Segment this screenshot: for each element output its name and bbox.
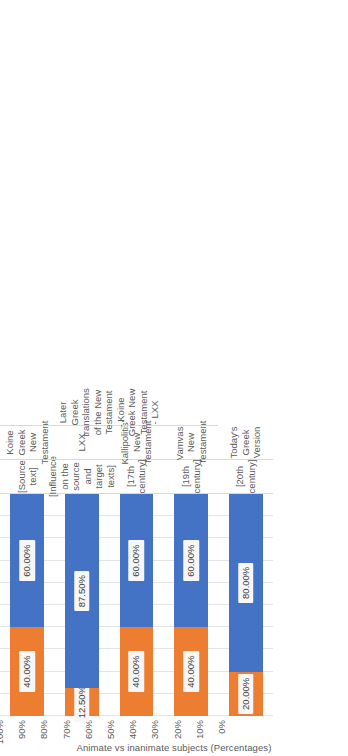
- value-axis-tick-label: 40%: [128, 720, 138, 739]
- category-label-text: Koine Greek New Testament: [0, 426, 55, 460]
- category-label-text: Today's Greek Version: [218, 426, 273, 460]
- chart-rotation-wrapper: Animate vs inanimate subjects (Percentag…: [0, 0, 348, 756]
- bar-segment-label: 40.00%: [183, 651, 199, 691]
- bar-group: 40.00%60.00%: [10, 494, 44, 716]
- bar-segment-inanimate: 40.00%: [10, 627, 44, 716]
- bar-segment-label: 20.00%: [238, 674, 254, 714]
- bar-segment-inanimate: 12.50%: [65, 688, 99, 716]
- stacked-bar-chart: Animate vs inanimate subjects (Percentag…: [0, 0, 348, 756]
- category-label-period: [19th century]: [164, 460, 219, 494]
- category-label-period-text: [17th century]: [125, 460, 148, 494]
- value-axis-tick-label: 60%: [84, 720, 94, 739]
- bar-segment-animate: 60.00%: [120, 494, 154, 627]
- plot-area: 40.00%60.00%12.50%87.50%40.00%60.00%40.0…: [0, 494, 273, 716]
- bar-segment-label: 40.00%: [20, 651, 36, 691]
- bar-group: 12.50%87.50%: [65, 494, 99, 716]
- bar-group: 40.00%60.00%: [174, 494, 208, 716]
- category-label-group: Later Greek translations of the New Test…: [0, 400, 218, 426]
- category-label-text-text: Koine Greek New Testament: [4, 421, 50, 465]
- value-axis-tick-label: 100%: [0, 720, 5, 744]
- bar-segment-label: 40.00%: [129, 651, 145, 691]
- category-label-text: Vamvas' New Testament: [164, 426, 219, 460]
- bar-segment-animate: 87.50%: [65, 494, 99, 688]
- category-tier-period: [Source text][Influence on the source an…: [0, 460, 273, 494]
- bar-segment-label: 60.00%: [129, 540, 145, 580]
- category-label-text-text: Vamvas' New Testament: [174, 421, 209, 465]
- value-axis-title: Animate vs inanimate subjects (Percentag…: [0, 740, 348, 756]
- value-axis-tick-labels: 100%90%80%70%60%50%40%30%20%10%0%: [0, 718, 273, 740]
- bar-segment-animate: 60.00%: [10, 494, 44, 627]
- category-label-period: [Influence on the source and target text…: [55, 460, 110, 494]
- category-label-period: [Source text]: [0, 460, 55, 494]
- bar-segment-inanimate: 20.00%: [229, 672, 263, 716]
- bar-segment-inanimate: 40.00%: [120, 627, 154, 716]
- category-label-period: [20th century]: [218, 460, 273, 494]
- value-axis-tick-label: 0%: [217, 720, 227, 734]
- category-label-text-text: Today's Greek Version: [228, 426, 263, 459]
- bar-segment-label: 60.00%: [183, 540, 199, 580]
- category-label-period-text: [20th century]: [234, 460, 257, 494]
- category-label-period-text: [19th century]: [180, 460, 203, 494]
- category-label-period-text: [Influence on the source and target text…: [47, 456, 116, 497]
- value-axis-tick-label: 30%: [151, 720, 161, 739]
- value-axis-tick-label: 20%: [173, 720, 183, 739]
- bar-segment-label: 80.00%: [238, 563, 254, 603]
- value-axis-tick-label: 70%: [62, 720, 72, 739]
- bar-segment-animate: 60.00%: [174, 494, 208, 627]
- bar-series-container: 40.00%60.00%12.50%87.50%40.00%60.00%40.0…: [0, 494, 273, 716]
- category-tier-group: Later Greek translations of the New Test…: [0, 400, 273, 426]
- category-label-group-text: Later Greek translations of the New Test…: [57, 388, 161, 437]
- bar-segment-label: 60.00%: [20, 540, 36, 580]
- category-label-period: [17th century]: [109, 460, 164, 494]
- value-axis-tick-label: 90%: [17, 720, 27, 739]
- category-label-period-text: [Source text]: [16, 460, 39, 493]
- value-axis-tick-label: 50%: [106, 720, 116, 739]
- bar-segment-inanimate: 40.00%: [174, 627, 208, 716]
- category-axis: [Source text][Influence on the source an…: [0, 400, 273, 494]
- bar-group: 20.00%80.00%: [229, 494, 263, 716]
- bar-group: 40.00%60.00%: [120, 494, 154, 716]
- bar-segment-label: 87.50%: [74, 571, 90, 611]
- bar-segment-animate: 80.00%: [229, 494, 263, 672]
- value-axis-tick-label: 10%: [195, 720, 205, 739]
- value-axis-tick-label: 80%: [40, 720, 50, 739]
